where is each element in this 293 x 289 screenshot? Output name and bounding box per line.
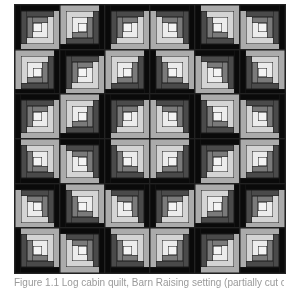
center-square xyxy=(123,112,132,121)
quilt-block-br xyxy=(240,139,285,184)
quilt-block-tl xyxy=(240,184,285,229)
center-square xyxy=(168,246,177,255)
quilt-block-bl xyxy=(105,139,150,184)
center-square xyxy=(213,23,222,32)
center-square xyxy=(33,112,42,121)
center-square xyxy=(213,246,222,255)
quilt-block-bl xyxy=(195,94,240,139)
center-square xyxy=(168,112,177,121)
center-square xyxy=(33,202,42,211)
center-square xyxy=(213,157,222,166)
quilt-block-tl xyxy=(195,139,240,184)
quilt-block-tl xyxy=(150,184,195,229)
quilt-block-tl xyxy=(195,228,240,273)
quilt-block-tr xyxy=(105,184,150,229)
quilt-block-br xyxy=(150,139,195,184)
center-square xyxy=(123,202,132,211)
center-square xyxy=(258,202,267,211)
center-square xyxy=(123,157,132,166)
center-square xyxy=(78,23,87,32)
quilt-block-tr xyxy=(150,94,195,139)
quilt-block-tl xyxy=(15,94,60,139)
center-square xyxy=(78,68,87,77)
quilt-block-bl xyxy=(105,228,150,273)
quilt-block-bl xyxy=(15,139,60,184)
quilt-block-br xyxy=(15,50,60,95)
quilt-block-tr xyxy=(60,139,105,184)
center-square xyxy=(168,68,177,77)
center-square xyxy=(33,246,42,255)
center-square xyxy=(168,202,177,211)
quilt-block-br xyxy=(60,94,105,139)
quilt-block-tr xyxy=(240,94,285,139)
center-square xyxy=(213,68,222,77)
quilt-block-br xyxy=(60,5,105,50)
center-square xyxy=(258,157,267,166)
center-square xyxy=(78,202,87,211)
center-square xyxy=(258,112,267,121)
center-square xyxy=(168,157,177,166)
center-square xyxy=(78,246,87,255)
quilt-block-tl xyxy=(15,5,60,50)
quilt-block-tr xyxy=(240,5,285,50)
quilt-block-bl xyxy=(15,228,60,273)
center-square xyxy=(123,246,132,255)
center-square xyxy=(213,112,222,121)
quilt-block-br xyxy=(105,50,150,95)
quilt-block-tr xyxy=(15,184,60,229)
center-square xyxy=(123,23,132,32)
quilt-block-tl xyxy=(60,50,105,95)
center-square xyxy=(258,68,267,77)
quilt-block-br xyxy=(195,184,240,229)
quilt-figure xyxy=(15,5,285,273)
center-square xyxy=(258,246,267,255)
quilt-block-tr xyxy=(60,228,105,273)
center-square xyxy=(123,68,132,77)
quilt-block-bl xyxy=(195,5,240,50)
center-square xyxy=(33,23,42,32)
quilt-block-br xyxy=(150,228,195,273)
quilt-block-br xyxy=(240,228,285,273)
quilt-block-bl xyxy=(240,50,285,95)
center-square xyxy=(33,68,42,77)
quilt-block-tl xyxy=(105,94,150,139)
quilt-block-tr xyxy=(150,5,195,50)
center-square xyxy=(78,157,87,166)
quilt-block-bl xyxy=(60,184,105,229)
quilt-block-tr xyxy=(195,50,240,95)
center-square xyxy=(213,202,222,211)
quilt-block-tl xyxy=(105,5,150,50)
center-square xyxy=(168,23,177,32)
center-square xyxy=(258,23,267,32)
center-square xyxy=(78,112,87,121)
figure-caption: Figure 1.1 Log cabin quilt, Barn Raising… xyxy=(14,277,284,289)
center-square xyxy=(33,157,42,166)
quilt-block-bl xyxy=(150,50,195,95)
